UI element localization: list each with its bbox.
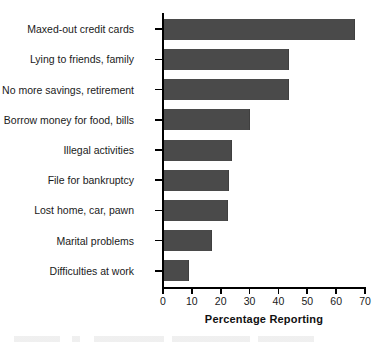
- bar: [163, 260, 189, 281]
- bar: [163, 140, 232, 161]
- x-axis-tick: [162, 288, 164, 294]
- x-axis-tick: [364, 288, 366, 294]
- y-axis-category-label: Lying to friends, family: [30, 53, 134, 65]
- x-axis-tick: [249, 288, 251, 294]
- y-axis-line: [162, 13, 164, 288]
- y-axis-category-label: Lost home, car, pawn: [34, 204, 134, 216]
- x-axis-tick-label: 40: [273, 295, 285, 307]
- x-axis-tick-label: 20: [215, 295, 227, 307]
- x-axis-tick-label: 10: [186, 295, 198, 307]
- bar: [163, 79, 289, 100]
- y-axis-category-label: Maxed-out credit cards: [27, 23, 134, 35]
- x-axis-title: Percentage Reporting: [163, 313, 365, 325]
- x-axis-tick-label: 50: [301, 295, 313, 307]
- bar: [163, 49, 289, 70]
- y-axis-category-label: Difficulties at work: [50, 265, 134, 277]
- bar: [163, 109, 250, 130]
- y-axis-category-label: Marital problems: [56, 235, 134, 247]
- caption-artifact: [14, 336, 314, 342]
- x-axis-tick-label: 60: [330, 295, 342, 307]
- x-axis-tick: [191, 288, 193, 294]
- y-axis-category-labels: Maxed-out credit cardsLying to friends, …: [0, 14, 146, 286]
- bar: [163, 170, 229, 191]
- bar-chart-figure: Maxed-out credit cardsLying to friends, …: [0, 0, 391, 346]
- x-axis-tick: [335, 288, 337, 294]
- x-axis-tick-label: 0: [160, 295, 166, 307]
- y-axis-category-label: Illegal activities: [63, 144, 134, 156]
- bar: [163, 19, 355, 40]
- y-axis-category-label: Borrow money for food, bills: [4, 114, 134, 126]
- plot-area: [163, 14, 365, 286]
- x-axis-tick-label: 70: [359, 295, 371, 307]
- x-axis-tick: [278, 288, 280, 294]
- x-axis-tick-label: 30: [244, 295, 256, 307]
- bar: [163, 200, 228, 221]
- y-axis-category-label: No more savings, retirement: [2, 84, 134, 96]
- bar: [163, 230, 212, 251]
- x-axis-tick: [306, 288, 308, 294]
- y-axis-category-label: File for bankruptcy: [48, 174, 134, 186]
- x-axis-tick: [220, 288, 222, 294]
